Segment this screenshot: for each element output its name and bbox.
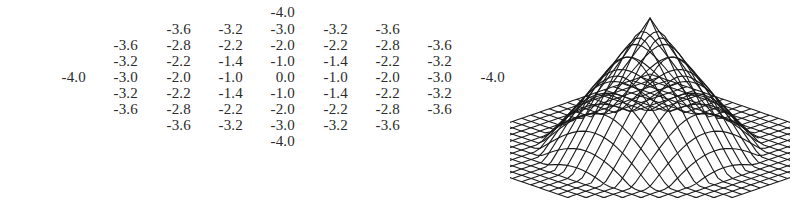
matrix-cell: -2.2 bbox=[304, 102, 348, 117]
matrix-cell: -3.0 bbox=[251, 118, 295, 133]
matrix-cell: -2.8 bbox=[356, 102, 400, 117]
matrix-cell: -2.0 bbox=[356, 70, 400, 85]
matrix-cell: -3.6 bbox=[356, 118, 400, 133]
value-matrix: -4.0-3.6-3.2-3.0-3.2-3.6-3.6-2.8-2.2-2.0… bbox=[0, 0, 500, 201]
matrix-cell: -2.0 bbox=[251, 38, 295, 53]
mesh-line bbox=[568, 57, 788, 179]
matrix-cell: -2.8 bbox=[356, 38, 400, 53]
mesh-line bbox=[604, 90, 790, 166]
matrix-cell: -3.6 bbox=[94, 38, 138, 53]
mesh-line bbox=[510, 150, 650, 198]
matrix-cell: -1.4 bbox=[199, 54, 243, 69]
matrix-cell: -3.6 bbox=[147, 22, 191, 37]
matrix-cell: -2.2 bbox=[356, 86, 400, 101]
surface-mesh-plot bbox=[510, 8, 790, 198]
matrix-cell: -3.2 bbox=[199, 118, 243, 133]
matrix-cell: -3.2 bbox=[94, 86, 138, 101]
matrix-cell: -2.8 bbox=[147, 102, 191, 117]
matrix-cell: -3.6 bbox=[94, 102, 138, 117]
matrix-cell: -4.0 bbox=[251, 134, 295, 149]
matrix-cell: -2.2 bbox=[199, 38, 243, 53]
matrix-cell: -3.6 bbox=[408, 38, 452, 53]
matrix-cell: -1.4 bbox=[304, 86, 348, 101]
matrix-cell: -1.0 bbox=[251, 54, 295, 69]
matrix-cell: -1.0 bbox=[304, 70, 348, 85]
matrix-cell: -2.2 bbox=[304, 38, 348, 53]
matrix-cell: -2.0 bbox=[251, 102, 295, 117]
matrix-cell: -2.2 bbox=[147, 86, 191, 101]
matrix-cell: -3.2 bbox=[408, 86, 452, 101]
matrix-cell: -4.0 bbox=[251, 5, 295, 20]
matrix-cell: -4.0 bbox=[42, 70, 86, 85]
matrix-cell: -3.6 bbox=[408, 102, 452, 117]
matrix-cell: -2.2 bbox=[199, 102, 243, 117]
mesh-line bbox=[513, 57, 733, 179]
mesh-line bbox=[510, 141, 678, 199]
matrix-cell: -3.2 bbox=[304, 22, 348, 37]
matrix-cell: -3.2 bbox=[408, 54, 452, 69]
matrix-cell: -2.8 bbox=[147, 38, 191, 53]
matrix-cell: -2.0 bbox=[147, 70, 191, 85]
mesh-line bbox=[540, 18, 760, 188]
matrix-cell: -1.4 bbox=[199, 86, 243, 101]
matrix-cell: -1.0 bbox=[251, 86, 295, 101]
matrix-cell: -3.6 bbox=[147, 118, 191, 133]
matrix-cell: -3.0 bbox=[251, 22, 295, 37]
matrix-cell: -1.4 bbox=[304, 54, 348, 69]
matrix-cell: -2.2 bbox=[147, 54, 191, 69]
matrix-cell: -3.2 bbox=[199, 22, 243, 37]
mesh-line bbox=[540, 18, 760, 188]
matrix-cell: -3.2 bbox=[94, 54, 138, 69]
mesh-line bbox=[650, 150, 790, 198]
matrix-cell: -3.0 bbox=[94, 70, 138, 85]
matrix-cell: 0.0 bbox=[251, 70, 295, 85]
matrix-cell: -4.0 bbox=[461, 70, 505, 85]
matrix-cell: -2.2 bbox=[356, 54, 400, 69]
matrix-cell: -3.6 bbox=[356, 22, 400, 37]
matrix-cell: -3.0 bbox=[408, 70, 452, 85]
mesh-line bbox=[510, 90, 696, 166]
matrix-cell: -3.2 bbox=[304, 118, 348, 133]
matrix-cell: -1.0 bbox=[199, 70, 243, 85]
mesh-line bbox=[623, 141, 791, 199]
